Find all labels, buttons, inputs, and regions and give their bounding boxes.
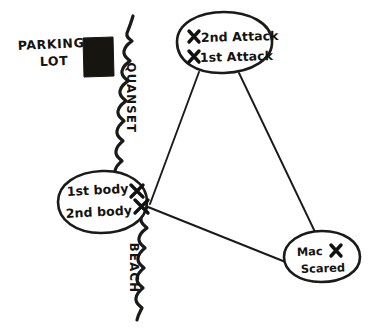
parking-lot-label-line2: LOT (40, 53, 69, 69)
parking-lot-area: PARKING LOT (17, 35, 114, 77)
mac-node[interactable]: Mac Scared (284, 231, 360, 282)
sketch-map-svg: PARKING LOT QUANSET BEACH 2nd Attack (0, 0, 382, 336)
connector-bodies-mac (148, 207, 288, 263)
mac-line2-text: Scared (301, 260, 346, 276)
attacks-line1-text: 2nd Attack (201, 28, 280, 45)
connector-group (148, 72, 316, 263)
parking-lot-rect (83, 37, 114, 77)
quanset-label: QUANSET (124, 63, 138, 134)
bodies-node[interactable]: 1st body 2nd body (58, 171, 148, 233)
beach-label: BEACH (127, 243, 141, 293)
shoreline: QUANSET BEACH (114, 16, 147, 320)
sketch-map-canvas: PARKING LOT QUANSET BEACH 2nd Attack (0, 0, 382, 336)
bodies-node-outline (58, 171, 147, 233)
attacks-line2-text: 1st Attack (200, 48, 274, 65)
attacks-node[interactable]: 2nd Attack 1st Attack (177, 12, 279, 73)
mac-line1-text: Mac (297, 244, 323, 259)
connector-attacks-mac (239, 73, 316, 234)
connector-attacks-bodies (150, 72, 199, 204)
parking-lot-label-line1: PARKING (17, 35, 84, 53)
